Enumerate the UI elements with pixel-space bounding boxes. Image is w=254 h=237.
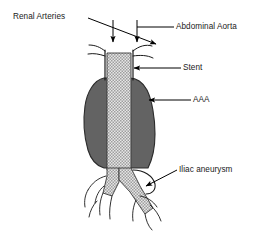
anatomical-diagram	[0, 0, 254, 237]
label-renal-arteries: Renal Arteries	[13, 13, 65, 21]
stent-graft-body	[107, 53, 131, 170]
figure-canvas: Renal Arteries Abdominal Aorta Stent AAA…	[0, 0, 254, 237]
leader-renal-arteries	[88, 18, 156, 44]
leader-iliac-aneurysm	[146, 170, 177, 186]
label-abdominal-aorta: Abdominal Aorta	[176, 23, 237, 31]
label-aaa: AAA	[193, 96, 210, 104]
label-iliac-aneurysm: Iliac aneurysm	[179, 166, 232, 174]
stent-limb-left	[103, 168, 119, 196]
label-stent: Stent	[183, 64, 202, 72]
renal-artery-right	[133, 45, 153, 58]
renal-artery-left	[88, 45, 105, 56]
